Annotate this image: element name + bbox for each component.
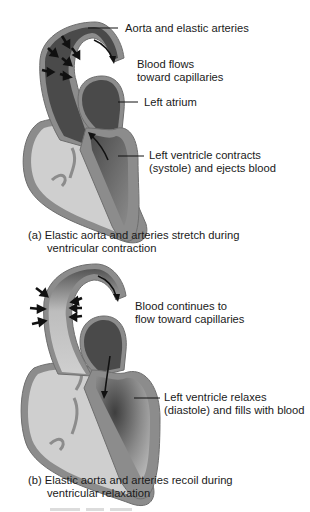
caption-a: (a) Elastic aorta and arteries stretch d… — [28, 229, 239, 255]
label-blood-continues: Blood continues to flow toward capillari… — [135, 300, 244, 326]
label-left-ventricle-contracts: Left ventricle contracts (systole) and e… — [149, 149, 276, 175]
heart-systole-illustration — [0, 0, 310, 260]
label-left-ventricle-relaxes: Left ventricle relaxes (diastole) and fi… — [164, 391, 305, 417]
caption-b: (b) Elastic aorta and arteries recoil du… — [28, 474, 233, 500]
cropped-text-fragment — [50, 506, 140, 512]
panel-a-systole: Aorta and elastic arteries Blood flows t… — [0, 0, 310, 260]
label-aorta: Aorta and elastic arteries — [125, 22, 249, 35]
panel-b-diastole: Blood continues to flow toward capillari… — [0, 258, 310, 512]
label-left-atrium: Left atrium — [144, 96, 197, 109]
label-blood-flows: Blood flows toward capillaries — [137, 58, 223, 84]
